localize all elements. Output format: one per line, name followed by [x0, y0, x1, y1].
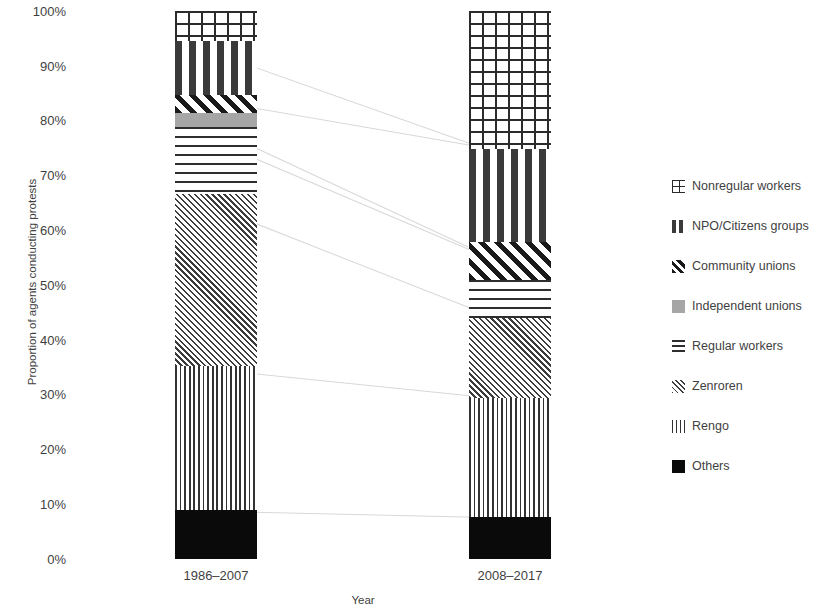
- gray-swatch-icon: [672, 300, 685, 313]
- stacked-bar-chart: Proportion of agents conducting protests…: [0, 0, 831, 612]
- legend-label: Independent unions: [692, 299, 802, 313]
- segment-zenroren: [469, 318, 551, 398]
- legend-label: Others: [692, 459, 730, 473]
- bar-1986-2007: [175, 11, 257, 559]
- legend-label: Zenroren: [692, 379, 743, 393]
- vertical-lines-swatch-icon: [672, 420, 685, 433]
- x-tick-label-2008-2017: 2008–2017: [410, 568, 610, 583]
- segment-rengo: [469, 398, 551, 517]
- segment-npo-citizens-groups: [469, 149, 551, 242]
- fine-diagonal-swatch-icon: [672, 380, 685, 393]
- segment-community-unions: [469, 242, 551, 280]
- segment-independent-unions: [175, 113, 257, 127]
- legend-item-community-unions: Community unions: [672, 246, 831, 286]
- legend-item-others: Others: [672, 446, 831, 486]
- x-tick-label-1986-2007: 1986–2007: [116, 568, 316, 583]
- y-tick-90: 90%: [0, 59, 66, 74]
- legend-label: Regular workers: [692, 339, 783, 353]
- brick-swatch-icon: [672, 180, 685, 193]
- solid-black-swatch-icon: [672, 460, 685, 473]
- segment-regular-workers: [175, 127, 257, 194]
- legend-label: Community unions: [692, 259, 796, 273]
- y-tick-10: 10%: [0, 497, 66, 512]
- legend-label: Rengo: [692, 419, 729, 433]
- segment-zenroren: [175, 194, 257, 366]
- y-tick-80: 80%: [0, 113, 66, 128]
- legend-item-regular-workers: Regular workers: [672, 326, 831, 366]
- chart-legend: Nonregular workers NPO/Citizens groups C…: [672, 166, 831, 486]
- y-tick-40: 40%: [0, 333, 66, 348]
- dashes-swatch-icon: [672, 220, 685, 233]
- x-axis-title: Year: [263, 594, 463, 606]
- legend-item-rengo: Rengo: [672, 406, 831, 446]
- segment-community-unions: [175, 95, 257, 113]
- segment-regular-workers: [469, 280, 551, 318]
- legend-item-independent-unions: Independent unions: [672, 286, 831, 326]
- legend-label: Nonregular workers: [692, 179, 801, 193]
- legend-item-npo-citizens-groups: NPO/Citizens groups: [672, 206, 831, 246]
- legend-item-nonregular-workers: Nonregular workers: [672, 166, 831, 206]
- segment-rengo: [175, 366, 257, 510]
- segment-npo-citizens-groups: [175, 41, 257, 95]
- y-tick-100: 100%: [0, 4, 66, 19]
- legend-label: NPO/Citizens groups: [692, 219, 809, 233]
- y-tick-20: 20%: [0, 442, 66, 457]
- y-tick-30: 30%: [0, 387, 66, 402]
- legend-item-zenroren: Zenroren: [672, 366, 831, 406]
- bar-2008-2017: [469, 11, 551, 559]
- segment-others: [175, 510, 257, 559]
- segment-others: [469, 517, 551, 559]
- y-tick-50: 50%: [0, 278, 66, 293]
- y-tick-0: 0%: [0, 552, 66, 567]
- y-tick-70: 70%: [0, 168, 66, 183]
- y-tick-60: 60%: [0, 223, 66, 238]
- segment-nonregular-workers: [469, 11, 551, 149]
- bold-diagonal-swatch-icon: [672, 260, 685, 273]
- horizontal-lines-swatch-icon: [672, 340, 685, 353]
- segment-nonregular-workers: [175, 11, 257, 41]
